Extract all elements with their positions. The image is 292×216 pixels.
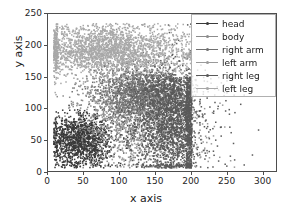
- y-tick-label: 150: [25, 72, 42, 82]
- y-tick-label: 200: [25, 40, 42, 50]
- y-tick-label: 250: [25, 8, 42, 18]
- y-tick-label: 0: [36, 167, 42, 177]
- y-tick: [44, 108, 47, 109]
- legend-label: body: [219, 32, 244, 42]
- legend-item[interactable]: body: [195, 30, 272, 43]
- y-tick: [44, 140, 47, 141]
- x-tick-label: 50: [77, 176, 88, 186]
- x-tick-label: 200: [182, 176, 199, 186]
- x-tick: [227, 172, 228, 175]
- y-tick: [44, 45, 47, 46]
- legend-item[interactable]: left leg: [195, 82, 272, 95]
- x-tick: [119, 172, 120, 175]
- legend-marker-icon: [195, 57, 219, 68]
- legend-marker-icon: [195, 18, 219, 29]
- x-tick: [47, 172, 48, 175]
- x-tick-label: 150: [146, 176, 163, 186]
- x-tick: [263, 172, 264, 175]
- legend-item[interactable]: right arm: [195, 43, 272, 56]
- legend-label: left leg: [219, 84, 253, 94]
- y-tick: [44, 172, 47, 173]
- y-axis-label: y axis: [12, 12, 25, 92]
- legend-item[interactable]: right leg: [195, 69, 272, 82]
- legend-item[interactable]: left arm: [195, 56, 272, 69]
- legend-label: right arm: [219, 45, 264, 55]
- scatter-figure: 050100150200250300050100150200250 x axis…: [0, 0, 292, 216]
- x-tick-label: 0: [44, 176, 50, 186]
- legend-marker-icon: [195, 31, 219, 42]
- legend-marker-icon: [195, 70, 219, 81]
- x-axis-label: x axis: [0, 192, 292, 205]
- x-tick-label: 300: [254, 176, 271, 186]
- y-tick-label: 50: [31, 135, 42, 145]
- legend-label: head: [219, 19, 244, 29]
- y-tick: [44, 77, 47, 78]
- legend-marker-icon: [195, 44, 219, 55]
- legend-label: right leg: [219, 71, 260, 81]
- legend-label: left arm: [219, 58, 257, 68]
- x-tick-label: 250: [218, 176, 235, 186]
- x-tick-label: 100: [110, 176, 127, 186]
- x-tick: [155, 172, 156, 175]
- y-tick: [44, 13, 47, 14]
- legend-marker-icon: [195, 83, 219, 94]
- x-tick: [191, 172, 192, 175]
- legend-item[interactable]: head: [195, 17, 272, 30]
- x-tick: [83, 172, 84, 175]
- y-tick-label: 100: [25, 103, 42, 113]
- legend: headbodyright armleft armright legleft l…: [191, 14, 276, 97]
